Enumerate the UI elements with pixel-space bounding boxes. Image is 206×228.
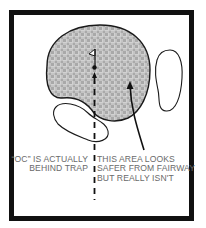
- annotation-left-line: BEHIND TRAP: [12, 164, 88, 173]
- right-trap: [155, 50, 182, 111]
- annotation-left: “OC” IS ACTUALLY BEHIND TRAP: [12, 155, 88, 174]
- annotation-right: THIS AREA LOOKS SAFER FROM FAIRWAY BUT R…: [97, 155, 195, 183]
- annotation-right-line: BUT REALLY ISN'T: [97, 174, 195, 183]
- green-diagram: [0, 0, 206, 228]
- pin-dot: [92, 65, 96, 69]
